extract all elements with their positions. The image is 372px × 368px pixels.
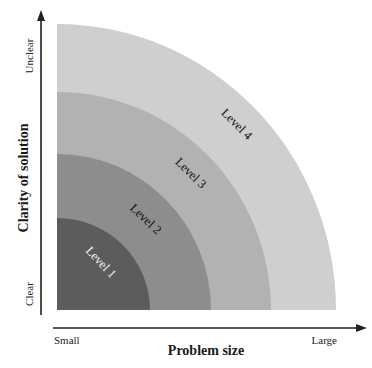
y-axis-arrowhead-icon (37, 10, 45, 21)
maturity-levels-diagram: Level 1 Level 2 Level 3 Level 4 Unclear … (0, 0, 372, 368)
x-axis-arrowhead-icon (356, 324, 367, 332)
y-axis-start-label: Clear (23, 282, 35, 306)
x-axis-title: Problem size (168, 343, 244, 358)
y-axis-title: Clarity of solution (16, 123, 31, 232)
y-axis-end-label: Unclear (23, 38, 35, 73)
x-axis-end-label: Large (312, 334, 338, 346)
x-axis-start-label: Small (54, 334, 80, 346)
